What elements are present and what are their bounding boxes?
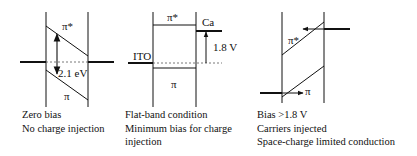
caption-line: No charge injection [22,122,105,136]
homo-label: π [64,90,70,102]
caption-zero-bias: Zero bias No charge injection [22,108,105,135]
caption-line: Space-charge limited conduction [257,135,395,149]
caption-line: Carriers injected [257,122,395,136]
lumo-label: π* [288,34,299,46]
lumo-label: π* [167,11,178,23]
gap-label: 2.1 eV [58,67,87,79]
voltage-label: 1.8 V [213,41,237,53]
caption-line: Minimum bias for charge [125,122,232,136]
caption-flat-band: Flat-band condition Minimum bias for cha… [125,108,232,149]
ito-label: ITO [133,50,151,62]
caption-line: Bias >1.8 V [257,108,395,122]
homo-band [282,66,324,97]
homo-label: π [305,85,311,97]
lumo-label: π* [62,20,73,32]
caption-line: injection [125,135,232,149]
caption-line: Flat-band condition [125,108,232,122]
ca-label: Ca [202,16,214,28]
caption-line: Zero bias [22,108,105,122]
homo-label: π [171,78,177,90]
caption-forward-bias: Bias >1.8 V Carriers injected Space-char… [257,108,395,149]
